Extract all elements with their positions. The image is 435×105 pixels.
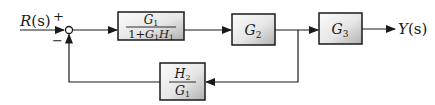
summing-junction xyxy=(66,27,73,34)
input-label: R(s) xyxy=(19,12,51,30)
block-forward-2: G2 xyxy=(232,14,275,45)
block-forward-1: G1 1+G1H1 xyxy=(118,12,184,42)
plus-sign: + xyxy=(53,9,64,24)
block-feedback: H2 G1 xyxy=(160,63,205,100)
output-label: Y(s) xyxy=(398,20,427,38)
block-forward-1-denominator: 1+G1H1 xyxy=(128,27,174,42)
feedback-return-line xyxy=(69,35,160,83)
block-diagram: R(s) + − G1 1+G1H1 G2 G3 Y(s) H2 G1 xyxy=(0,0,435,105)
minus-sign: − xyxy=(52,33,63,48)
block-forward-3: G3 xyxy=(319,13,362,44)
